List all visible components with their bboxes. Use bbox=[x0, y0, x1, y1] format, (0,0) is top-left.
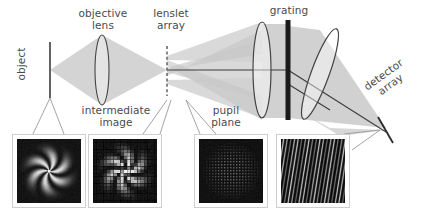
label-objective-lens: objective lens bbox=[72, 8, 134, 31]
leader-object bbox=[33, 98, 50, 134]
grating-glyph bbox=[286, 20, 291, 120]
leader-object-2 bbox=[50, 98, 64, 134]
figure-canvas: object objective lens lenslet array grat… bbox=[0, 0, 422, 217]
panel-intermediate-image bbox=[88, 134, 162, 208]
detector-image-canvas bbox=[281, 139, 345, 203]
collimator-lens-glyph bbox=[253, 22, 271, 118]
panel-pupil-plane-image bbox=[194, 134, 268, 208]
leader-pupil-plane-2 bbox=[186, 100, 200, 134]
panel-detector-image bbox=[276, 134, 350, 208]
objective-lens-glyph bbox=[95, 35, 109, 105]
intermediate-image-canvas bbox=[93, 139, 157, 203]
leader-lenslet-right bbox=[160, 100, 171, 134]
label-object: object bbox=[16, 36, 28, 92]
object-image-canvas bbox=[17, 139, 81, 203]
label-lenslet-array: lenslet array bbox=[142, 8, 200, 31]
pupil-plane-canvas bbox=[199, 139, 263, 203]
panel-object-image bbox=[12, 134, 86, 208]
label-pupil-plane: pupil plane bbox=[200, 105, 252, 128]
label-grating: grating bbox=[262, 5, 316, 17]
label-intermediate-image: intermediate image bbox=[76, 105, 156, 128]
